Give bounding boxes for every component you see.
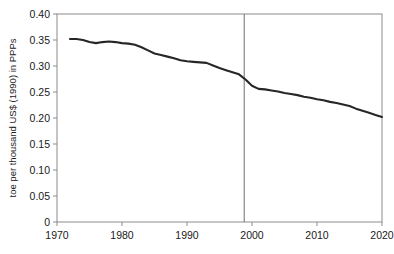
y-tick-label: 0.15 bbox=[30, 138, 51, 150]
y-tick-label: 0.40 bbox=[30, 8, 51, 20]
y-tick-label: 0.20 bbox=[30, 112, 51, 124]
x-tick-label: 1980 bbox=[110, 229, 134, 241]
y-tick-label: 0.35 bbox=[30, 34, 51, 46]
x-tick-label: 2020 bbox=[370, 229, 394, 241]
chart-background bbox=[0, 0, 394, 254]
y-axis-title: toe per thousand US$ (1990) in PPPs bbox=[7, 38, 18, 197]
y-tick-label: 0.30 bbox=[30, 60, 51, 72]
x-tick-label: 1990 bbox=[175, 229, 199, 241]
y-tick-label: 0.25 bbox=[30, 86, 51, 98]
x-tick-label: 1970 bbox=[45, 229, 69, 241]
y-tick-label: 0.10 bbox=[30, 164, 51, 176]
chart-figure: 00.050.100.150.200.250.300.350.40 197019… bbox=[0, 0, 394, 254]
x-tick-label: 2000 bbox=[240, 229, 264, 241]
y-tick-label: 0 bbox=[44, 216, 50, 228]
y-tick-label: 0.05 bbox=[30, 190, 51, 202]
x-tick-label: 2010 bbox=[305, 229, 329, 241]
line-chart: 00.050.100.150.200.250.300.350.40 197019… bbox=[0, 0, 394, 254]
